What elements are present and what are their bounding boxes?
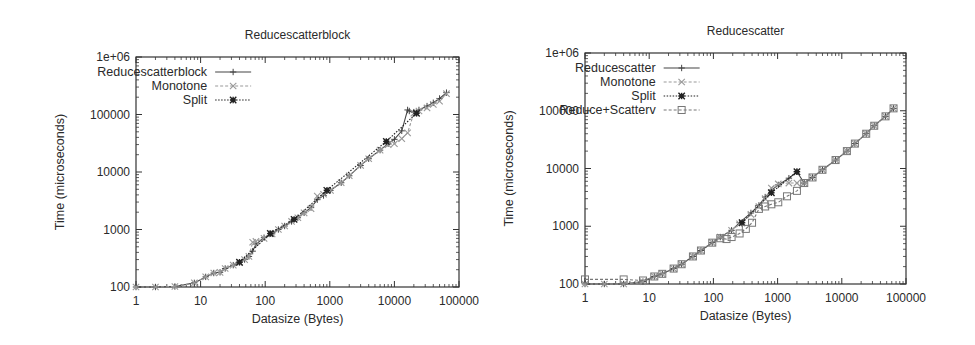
y-tick-label: 1e+06 bbox=[545, 46, 579, 60]
x-tick-label: 100 bbox=[255, 294, 275, 308]
x-tick-label: 10 bbox=[194, 294, 208, 308]
y-axis-label: Time (microseconds) bbox=[502, 110, 516, 226]
x-tick-label: 10 bbox=[643, 291, 657, 305]
x-tick-label: 1000 bbox=[316, 294, 343, 308]
legend-label: Monotone bbox=[600, 75, 656, 89]
series-monotone bbox=[582, 105, 897, 287]
y-axis-label: Time (microseconds) bbox=[53, 114, 67, 230]
x-tick-label: 100000 bbox=[886, 291, 926, 305]
chart-title: Reducescatterblock bbox=[245, 28, 351, 42]
x-tick-label: 10000 bbox=[378, 294, 412, 308]
plot-svg: Reducescatterblock1101001000100001000001… bbox=[0, 0, 490, 345]
chart-reducescatter: Reducescatter110100100010000100000100100… bbox=[490, 0, 975, 345]
x-tick-label: 1 bbox=[133, 294, 140, 308]
series-monotone bbox=[133, 91, 450, 291]
y-tick-label: 1000 bbox=[552, 219, 579, 233]
series-reducescatterblock bbox=[133, 89, 450, 290]
series-reduce-scatterv bbox=[582, 105, 898, 284]
plot-svg: Reducescatter110100100010000100000100100… bbox=[490, 0, 975, 345]
legend: ReducescatterblockMonotoneSplit bbox=[97, 65, 251, 107]
x-axis-label: Datasize (Bytes) bbox=[252, 312, 344, 326]
y-tick-label: 10000 bbox=[546, 162, 580, 176]
legend-label: Reduce+Scatterv bbox=[559, 103, 656, 117]
series-reducescatter bbox=[582, 105, 897, 287]
legend-label: Split bbox=[631, 89, 656, 103]
x-tick-label: 100 bbox=[703, 291, 723, 305]
y-tick-label: 100 bbox=[559, 277, 579, 291]
legend-label: Reducescatter bbox=[575, 61, 656, 75]
legend-label: Monotone bbox=[152, 79, 208, 93]
y-tick-label: 10000 bbox=[97, 165, 131, 179]
x-tick-label: 100000 bbox=[439, 294, 479, 308]
x-tick-label: 10000 bbox=[825, 291, 859, 305]
x-tick-label: 1000 bbox=[764, 291, 791, 305]
legend-label: Reducescatterblock bbox=[97, 65, 208, 79]
legend: ReducescatterMonotoneSplitReduce+Scatter… bbox=[559, 61, 699, 117]
legend-label: Split bbox=[183, 93, 208, 107]
y-tick-label: 1e+06 bbox=[96, 50, 130, 64]
chart-title: Reducescatter bbox=[707, 24, 784, 38]
y-tick-label: 100 bbox=[110, 280, 130, 294]
y-tick-label: 1000 bbox=[103, 223, 130, 237]
y-tick-label: 100000 bbox=[90, 108, 130, 122]
x-axis-label: Datasize (Bytes) bbox=[700, 309, 792, 323]
chart-reducescatterblock: Reducescatterblock1101001000100001000001… bbox=[0, 0, 490, 345]
x-tick-label: 1 bbox=[582, 291, 589, 305]
